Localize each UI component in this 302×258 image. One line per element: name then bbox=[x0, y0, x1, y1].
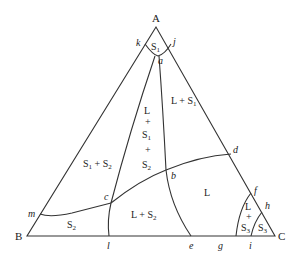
point-a: a bbox=[158, 55, 163, 66]
curve-a-c bbox=[111, 56, 155, 203]
svg-text:+: + bbox=[145, 116, 151, 127]
svg-text:S2: S2 bbox=[142, 159, 152, 172]
vertex-c-label: C bbox=[278, 230, 285, 242]
point-g: g bbox=[218, 240, 223, 251]
curve-m-c bbox=[40, 203, 111, 216]
svg-text:S1: S1 bbox=[142, 129, 152, 142]
region-l-plus-s1: L + S1 bbox=[171, 95, 197, 108]
point-l: l bbox=[107, 240, 110, 251]
point-m: m bbox=[28, 208, 35, 219]
svg-text:L: L bbox=[144, 105, 150, 116]
point-i: i bbox=[249, 240, 252, 251]
region-l-plus-s2: L + S2 bbox=[131, 209, 157, 222]
point-e: e bbox=[189, 240, 194, 251]
triangle-outline bbox=[27, 27, 275, 236]
point-c: c bbox=[104, 191, 109, 202]
region-s2: S2 bbox=[67, 219, 77, 232]
region-liquid: L bbox=[204, 187, 210, 198]
point-d: d bbox=[233, 144, 239, 155]
svg-text:+: + bbox=[145, 144, 151, 155]
region-l-s1-s2: L + S1 + S2 bbox=[142, 105, 152, 172]
point-k: k bbox=[136, 37, 141, 48]
point-f: f bbox=[254, 185, 258, 196]
curve-b-e bbox=[166, 170, 191, 236]
point-h: h bbox=[265, 200, 270, 211]
vertex-a-label: A bbox=[152, 12, 160, 24]
vertex-b-label: B bbox=[15, 230, 22, 242]
point-b: b bbox=[171, 170, 176, 181]
curve-c-l bbox=[108, 203, 111, 236]
ternary-phase-diagram: A B C k j a d b c m f h l e g i S1 L + S… bbox=[0, 0, 302, 258]
curve-a-b bbox=[159, 56, 166, 170]
svg-text:S3: S3 bbox=[241, 222, 251, 235]
region-s1-plus-s2: S1 + S2 bbox=[83, 158, 112, 171]
region-s3: S3 bbox=[258, 222, 268, 235]
region-l-plus-s3: L + S3 bbox=[241, 201, 252, 235]
point-j: j bbox=[171, 36, 176, 47]
svg-text:+: + bbox=[246, 211, 252, 222]
